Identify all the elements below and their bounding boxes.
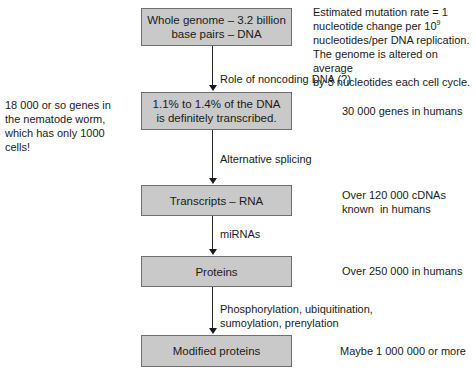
note-proteins-count: Over 250 000 in humans	[342, 264, 462, 278]
node-proteins-label: Proteins	[195, 265, 237, 279]
arrow-genome-to-transcribed	[212, 46, 213, 86]
node-proteins: Proteins	[141, 256, 292, 287]
arrowhead-icon	[209, 85, 217, 91]
note-mutation-rate: Estimated mutation rate = 1 nucleotide c…	[313, 5, 476, 89]
node-modified-label: Modified proteins	[173, 344, 261, 358]
edge-label-ptm-line1: Phosphorylation, ubiquitination,	[220, 302, 373, 316]
note-mutation-exponent: 9	[437, 19, 441, 26]
node-whole-genome-label: Whole genome – 3.2 billion base pairs – …	[142, 13, 291, 41]
arrow-transcripts-to-proteins	[212, 216, 213, 250]
arrowhead-icon	[209, 249, 217, 255]
node-transcribed-label: 1.1% to 1.4% of the DNA is definitely tr…	[142, 97, 291, 125]
node-whole-genome: Whole genome – 3.2 billion base pairs – …	[141, 8, 292, 46]
node-modified-proteins: Modified proteins	[141, 335, 292, 367]
node-transcripts-label: Transcripts – RNA	[170, 194, 264, 208]
note-mutation-line3: nucleotides/per DNA replication.	[313, 33, 476, 47]
arrowhead-icon	[209, 178, 217, 184]
note-mutation-line2-text: nucleotide change per 10	[313, 20, 437, 32]
note-worm-line2: the nematode worm,	[5, 112, 140, 126]
edge-label-ptm-line2: sumoylation, prenylation	[220, 316, 373, 330]
note-mutation-line1: Estimated mutation rate = 1	[313, 5, 476, 19]
note-mutation-line2: nucleotide change per 109	[313, 19, 476, 33]
note-cdnas: Over 120 000 cDNAs known in humans	[342, 188, 446, 216]
note-mutation-line4: The genome is altered on average	[313, 47, 476, 75]
note-mutation-line5: by 3 nucleotides each cell cycle.	[313, 75, 476, 89]
edge-label-splicing: Alternative splicing	[220, 152, 312, 166]
note-worm-line3: which has only 1000	[5, 126, 140, 140]
arrowhead-icon	[209, 328, 217, 334]
note-nematode: 18 000 or so genes in the nematode worm,…	[5, 98, 140, 154]
note-worm-line1: 18 000 or so genes in	[5, 98, 140, 112]
note-cdnas-line1: Over 120 000 cDNAs	[342, 188, 446, 202]
note-cdnas-line2: known in humans	[342, 202, 446, 216]
arrow-proteins-to-modified	[212, 287, 213, 329]
arrow-transcribed-to-transcripts	[212, 130, 213, 179]
note-modified-count: Maybe 1 000 000 or more	[340, 344, 466, 358]
edge-label-mirnas: miRNAs	[220, 227, 260, 241]
node-transcribed: 1.1% to 1.4% of the DNA is definitely tr…	[141, 92, 292, 130]
edge-label-ptm: Phosphorylation, ubiquitination, sumoyla…	[220, 302, 373, 330]
note-worm-line4: cells!	[5, 140, 140, 154]
node-transcripts-rna: Transcripts – RNA	[141, 185, 292, 216]
note-genes-humans: 30 000 genes in humans	[342, 104, 462, 118]
